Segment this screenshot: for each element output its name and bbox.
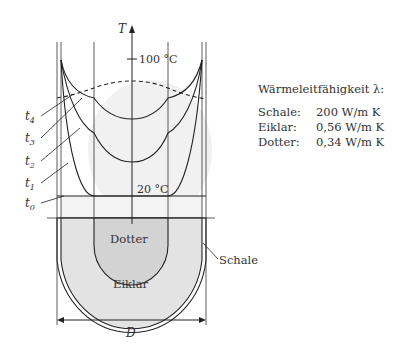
label-t2: t2 [25, 154, 35, 170]
legend-row: Schale: 200 W/m K [258, 105, 384, 120]
axis-arrow-icon [129, 25, 135, 33]
egg-temperature-diagram: T 100 °C 20 °C t4 t3 t2 t1 t0 Dotter Eik… [0, 0, 413, 349]
tick-100: 100 °C [139, 53, 177, 66]
legend-row: Dotter: 0,34 W/m K [258, 135, 384, 150]
label-t0: t0 [25, 196, 35, 212]
axis-label: T [118, 22, 127, 36]
label-t1: t1 [25, 176, 35, 192]
legend-title: Wärmeleitfähigkeit λ: [258, 82, 384, 97]
label-schale: Schale [219, 253, 258, 267]
tick-20: 20 °C [137, 183, 168, 196]
dimension-label: D [125, 326, 136, 340]
label-dotter: Dotter [110, 232, 148, 246]
label-eiklar: Eiklar [113, 277, 149, 291]
legend-row: Eiklar: 0,56 W/m K [258, 120, 384, 135]
label-t4: t4 [25, 109, 35, 125]
label-t3: t3 [25, 131, 35, 147]
conductivity-legend: Wärmeleitfähigkeit λ: Schale: 200 W/m K … [258, 82, 384, 150]
